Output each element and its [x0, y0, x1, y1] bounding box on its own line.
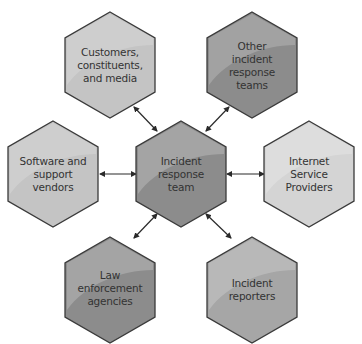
arrow-law-enforcement	[134, 214, 157, 238]
arrow-incident-reporters	[206, 214, 231, 238]
label-other-teams: Other incident response teams	[210, 40, 294, 92]
label-incident-response-team: Incident response team	[139, 155, 223, 194]
label-law-enforcement: Law enforcement agencies	[68, 269, 152, 308]
label-incident-reporters: Incident reporters	[210, 277, 294, 303]
label-customers: Customers, constituents, and media	[68, 46, 152, 85]
arrow-customers	[134, 107, 157, 131]
label-isp: Internet Service Providers	[267, 155, 351, 194]
arrow-other-teams	[206, 107, 229, 131]
label-software-vendors: Software and support vendors	[11, 155, 95, 194]
